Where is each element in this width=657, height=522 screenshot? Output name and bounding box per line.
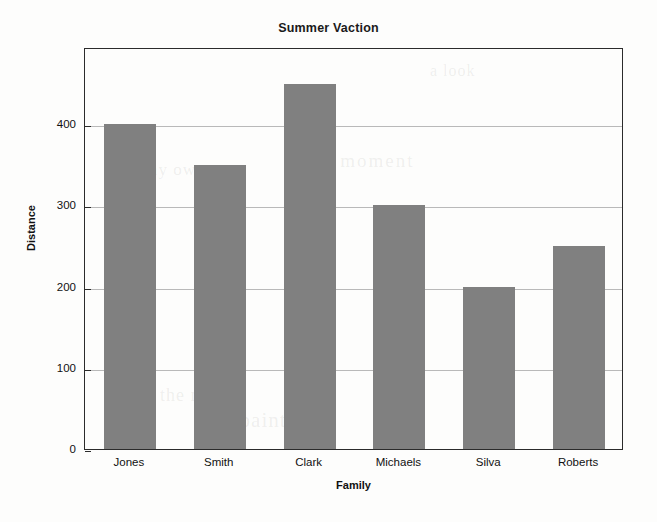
y-axis-tick-label: 300 bbox=[32, 199, 76, 211]
y-axis-tick-label: 400 bbox=[32, 118, 76, 130]
y-axis-tick bbox=[85, 126, 91, 127]
gridline bbox=[85, 207, 622, 208]
x-axis-tick-label: Silva bbox=[443, 456, 533, 468]
x-axis-tick-label: Roberts bbox=[533, 456, 623, 468]
chart-screenshot: one moment on my own the night and paint… bbox=[0, 0, 657, 522]
x-axis-tick-label: Michaels bbox=[354, 456, 444, 468]
y-axis-tick bbox=[85, 451, 91, 452]
gridline bbox=[85, 370, 622, 371]
bar bbox=[463, 287, 515, 449]
bar bbox=[284, 84, 336, 449]
x-axis-tick-label: Clark bbox=[264, 456, 354, 468]
bar bbox=[194, 165, 246, 449]
y-axis-tick bbox=[85, 289, 91, 290]
plot-area bbox=[84, 48, 623, 450]
y-axis-tick-label: 0 bbox=[32, 443, 76, 455]
x-axis-tick-label: Jones bbox=[84, 456, 174, 468]
gridline bbox=[85, 126, 622, 127]
y-axis-tick-label: 200 bbox=[32, 281, 76, 293]
bar bbox=[553, 246, 605, 449]
y-axis-tick-label: 100 bbox=[32, 362, 76, 374]
chart-title: Summer Vaction bbox=[0, 21, 657, 35]
x-axis-label: Family bbox=[84, 479, 623, 491]
gridline bbox=[85, 289, 622, 290]
x-axis-tick-label: Smith bbox=[174, 456, 264, 468]
bar bbox=[104, 124, 156, 449]
y-axis-label: Distance bbox=[25, 178, 37, 278]
bar bbox=[373, 205, 425, 449]
y-axis-tick bbox=[85, 370, 91, 371]
y-axis-tick bbox=[85, 207, 91, 208]
